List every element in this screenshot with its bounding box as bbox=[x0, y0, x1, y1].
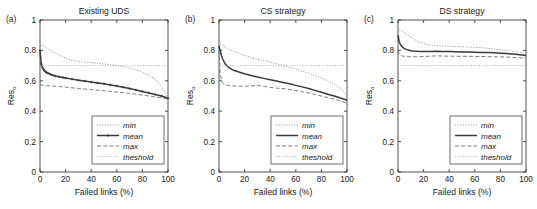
y-axis-title-text: Reso bbox=[364, 86, 375, 105]
y-axis-title: Reso bbox=[364, 86, 375, 105]
y-axis-title-subscript: o bbox=[11, 86, 17, 90]
legend-label-mean: mean bbox=[481, 132, 502, 141]
y-tick-label: 1 bbox=[389, 16, 394, 25]
panel-letter-c: (c) bbox=[364, 14, 374, 24]
y-tick-label: 0.6 bbox=[383, 77, 395, 86]
curve-min bbox=[398, 30, 526, 54]
x-tick-label: 20 bbox=[240, 175, 250, 184]
x-tick-label: 100 bbox=[519, 175, 533, 184]
x-tick-label: 80 bbox=[138, 175, 148, 184]
x-tick-label: 20 bbox=[419, 175, 429, 184]
y-axis-title-text: Reso bbox=[6, 86, 17, 105]
y-tick-label: 0.4 bbox=[25, 107, 37, 116]
x-tick-label: 0 bbox=[217, 175, 222, 184]
x-tick-label: 40 bbox=[266, 175, 276, 184]
y-tick-label: 0 bbox=[210, 168, 215, 177]
legend-label-mean: mean bbox=[123, 132, 144, 141]
x-tick-label: 60 bbox=[291, 175, 301, 184]
legend-label-min: min bbox=[302, 121, 315, 130]
chart-panel-b: (b)CS strategy02040608010000.20.40.60.81… bbox=[179, 0, 358, 209]
y-tick-label: 0.2 bbox=[25, 138, 37, 147]
panel-letter-a: (a) bbox=[6, 14, 16, 24]
x-tick-label: 80 bbox=[317, 175, 327, 184]
legend-label-max: max bbox=[123, 142, 139, 151]
chart-svg-a: (a)Existing UDS02040608010000.20.40.60.8… bbox=[0, 0, 179, 209]
y-tick-label: 0.2 bbox=[204, 138, 216, 147]
chart-title-a: Existing UDS bbox=[79, 6, 130, 16]
x-tick-label: 100 bbox=[340, 175, 354, 184]
y-tick-label: 0.6 bbox=[25, 77, 37, 86]
chart-svg-c: (c)DS strategy02040608010000.20.40.60.81… bbox=[358, 0, 537, 209]
chart-svg-b: (b)CS strategy02040608010000.20.40.60.81… bbox=[179, 0, 358, 209]
curve-min bbox=[40, 45, 168, 97]
chart-panel-c: (c)DS strategy02040608010000.20.40.60.81… bbox=[358, 0, 537, 209]
y-axis-title-text: Reso bbox=[185, 86, 196, 105]
chart-title-b: CS strategy bbox=[261, 6, 307, 16]
y-tick-label: 0.8 bbox=[25, 46, 37, 55]
y-tick-label: 0.4 bbox=[204, 107, 216, 116]
y-tick-label: 1 bbox=[210, 16, 215, 25]
y-tick-label: 0.2 bbox=[383, 138, 395, 147]
chart-title-c: DS strategy bbox=[440, 6, 486, 16]
x-tick-label: 60 bbox=[470, 175, 480, 184]
y-tick-label: 0.8 bbox=[383, 46, 395, 55]
x-tick-label: 40 bbox=[445, 175, 455, 184]
y-tick-label: 1 bbox=[31, 16, 36, 25]
panel-letter-b: (b) bbox=[185, 14, 195, 24]
x-tick-label: 0 bbox=[396, 175, 401, 184]
x-axis-title: Failed links (%) bbox=[254, 187, 313, 197]
x-tick-label: 20 bbox=[61, 175, 71, 184]
y-tick-label: 0.8 bbox=[204, 46, 216, 55]
y-axis-title: Reso bbox=[6, 86, 17, 105]
y-axis-title-subscript: o bbox=[190, 86, 196, 90]
x-axis-title: Failed links (%) bbox=[75, 187, 134, 197]
curve-mean bbox=[219, 46, 347, 100]
y-tick-label: 0.6 bbox=[204, 77, 216, 86]
legend-label-theshold: theshold bbox=[481, 153, 512, 162]
y-axis-title-subscript: o bbox=[369, 86, 375, 90]
x-tick-label: 0 bbox=[38, 175, 43, 184]
legend-label-theshold: theshold bbox=[123, 153, 154, 162]
legend-label-max: max bbox=[481, 142, 497, 151]
y-axis-title: Reso bbox=[185, 86, 196, 105]
y-tick-label: 0 bbox=[389, 168, 394, 177]
legend-label-min: min bbox=[123, 121, 136, 130]
legend-label-min: min bbox=[481, 121, 494, 130]
figure-container: (a)Existing UDS02040608010000.20.40.60.8… bbox=[0, 0, 537, 209]
chart-panel-a: (a)Existing UDS02040608010000.20.40.60.8… bbox=[0, 0, 179, 209]
x-tick-label: 40 bbox=[87, 175, 97, 184]
x-tick-label: 60 bbox=[112, 175, 122, 184]
y-tick-label: 0 bbox=[31, 168, 36, 177]
legend-label-max: max bbox=[302, 142, 318, 151]
legend-label-mean: mean bbox=[302, 132, 323, 141]
curve-mean bbox=[398, 35, 526, 55]
x-tick-label: 80 bbox=[496, 175, 506, 184]
curve-max bbox=[219, 50, 347, 103]
legend-label-theshold: theshold bbox=[302, 153, 333, 162]
x-tick-label: 100 bbox=[161, 175, 175, 184]
x-axis-title: Failed links (%) bbox=[433, 187, 492, 197]
y-tick-label: 0.4 bbox=[383, 107, 395, 116]
